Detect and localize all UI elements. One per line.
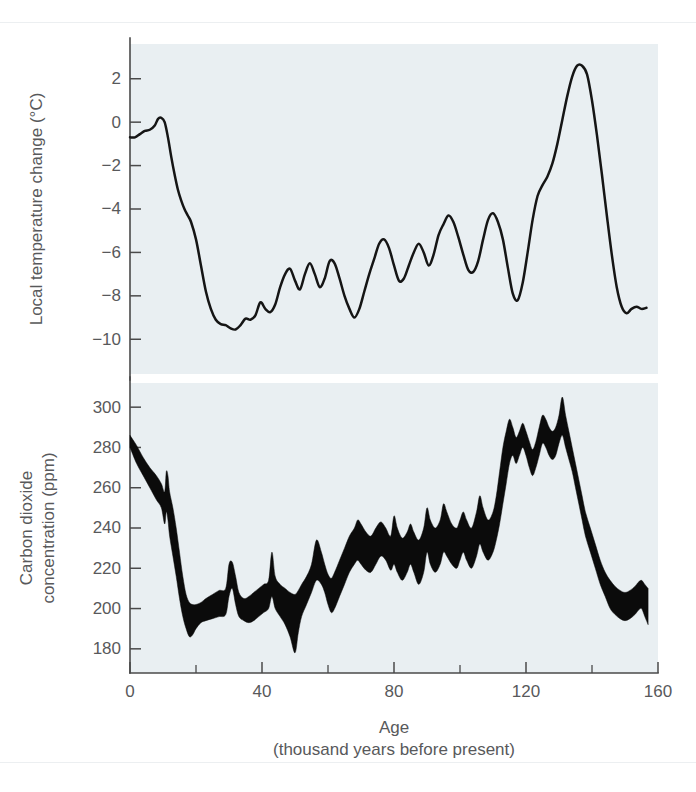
co2-tick-label: 220 xyxy=(93,559,121,578)
temperature-tick-label: −6 xyxy=(102,243,121,262)
x-axis-tick-label: 120 xyxy=(512,682,540,701)
climate-figure: 20−2−4−6−8−10 Local temperature change (… xyxy=(0,0,696,792)
x-axis-group: 04080120160 Age (thousand years before p… xyxy=(125,662,672,759)
temperature-axis-label: Local temperature change (°C) xyxy=(27,93,46,326)
x-axis-tick-label: 0 xyxy=(125,682,134,701)
x-axis-label-line1: Age xyxy=(379,718,409,737)
co2-tick-label: 240 xyxy=(93,518,121,537)
co2-tick-labels: 300280260240220200180 xyxy=(93,398,121,659)
x-axis-tick-labels: 04080120160 xyxy=(125,682,672,701)
temperature-tick-label: −4 xyxy=(102,199,121,218)
temperature-plot-background xyxy=(130,44,658,374)
temperature-tick-label: −2 xyxy=(102,156,121,175)
temperature-tick-label: 2 xyxy=(112,69,121,88)
co2-tick-label: 180 xyxy=(93,639,121,658)
temperature-tick-labels: 20−2−4−6−8−10 xyxy=(92,69,121,349)
x-axis-tick-label: 160 xyxy=(644,682,672,701)
co2-tick-label: 280 xyxy=(93,438,121,457)
temperature-tick-label: 0 xyxy=(112,113,121,132)
co2-tick-label: 300 xyxy=(93,398,121,417)
temperature-tick-label: −8 xyxy=(102,286,121,305)
co2-tick-label: 260 xyxy=(93,478,121,497)
x-axis-label-line2: (thousand years before present) xyxy=(273,740,515,759)
co2-axis-label-line1: Carbon dioxide xyxy=(17,471,36,585)
figure-svg: 20−2−4−6−8−10 Local temperature change (… xyxy=(0,0,696,792)
temperature-tick-label: −10 xyxy=(92,330,121,349)
co2-tick-label: 200 xyxy=(93,599,121,618)
co2-axis-label-line2: concentration (ppm) xyxy=(39,452,58,603)
x-axis-tick-label: 40 xyxy=(253,682,272,701)
x-axis-tick-label: 80 xyxy=(385,682,404,701)
